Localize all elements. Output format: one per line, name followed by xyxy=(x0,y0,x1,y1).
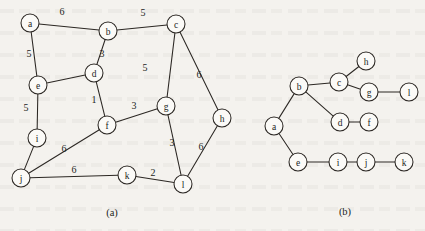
graph-edge-b-c xyxy=(308,83,330,85)
graph-node-a[interactable]: a xyxy=(21,14,39,32)
graph-node-d[interactable]: d xyxy=(85,64,103,82)
panel-caption-panel-a: (a) xyxy=(106,207,118,219)
graph-node-b[interactable]: b xyxy=(99,22,117,40)
edge-weight-k-l: 2 xyxy=(151,167,156,178)
node-label-d: d xyxy=(338,118,343,128)
graph-node-j[interactable]: j xyxy=(357,153,375,171)
edge-weight-e-i: 5 xyxy=(24,102,29,113)
graph-edge-j-k xyxy=(30,175,118,178)
graph-edge-f-g xyxy=(116,109,158,122)
edge-weight-f-g: 3 xyxy=(132,100,137,111)
graph-edge-c-h xyxy=(346,67,359,77)
graph-node-g[interactable]: g xyxy=(360,83,378,101)
graph-node-b[interactable]: b xyxy=(290,77,308,95)
edge-weight-g-l: 3 xyxy=(170,137,175,148)
graph-node-c[interactable]: c xyxy=(167,15,185,33)
figure-container: 65535615336662abcdefghijkl(a)hcbgldfaeij… xyxy=(0,0,425,231)
graph-edge-i-j xyxy=(24,146,33,169)
node-label-i: i xyxy=(36,134,39,144)
node-label-l: l xyxy=(408,88,411,98)
graph-node-h[interactable]: h xyxy=(213,109,231,127)
node-label-b: b xyxy=(297,82,302,92)
panel-b: hcbgldfaeijk(b) xyxy=(265,52,418,218)
graph-node-l[interactable]: l xyxy=(174,175,192,193)
node-label-k: k xyxy=(125,171,130,181)
graph-node-j[interactable]: j xyxy=(12,169,30,187)
graph-node-c[interactable]: c xyxy=(330,73,348,91)
edge-weight-b-d: 3 xyxy=(100,48,105,59)
graph-node-a[interactable]: a xyxy=(265,117,283,135)
graph-edge-c-g xyxy=(348,85,361,89)
edge-weight-c-h: 6 xyxy=(197,69,202,80)
edge-group xyxy=(24,24,218,183)
graph-node-d[interactable]: d xyxy=(331,113,349,131)
node-label-c: c xyxy=(337,78,341,88)
graph-edge-a-b xyxy=(39,24,99,30)
node-label-h: h xyxy=(364,57,369,67)
node-label-d: d xyxy=(92,69,97,79)
graph-edge-a-e xyxy=(279,133,293,154)
graph-edge-a-b xyxy=(279,94,294,119)
edge-weight-j-f: 6 xyxy=(62,143,67,154)
graph-node-g[interactable]: g xyxy=(157,97,175,115)
graph-node-k[interactable]: k xyxy=(395,153,413,171)
graph-node-h[interactable]: h xyxy=(357,52,375,70)
node-label-k: k xyxy=(402,158,407,168)
panel-caption-panel-b: (b) xyxy=(339,206,352,218)
graph-node-e[interactable]: e xyxy=(289,153,307,171)
edge-weight-b-c: 5 xyxy=(141,7,146,18)
node-label-j: j xyxy=(364,158,368,168)
graph-edge-e-i xyxy=(37,94,38,129)
graph-node-l[interactable]: l xyxy=(400,83,418,101)
node-label-g: g xyxy=(367,88,372,98)
edge-weight-a-b: 6 xyxy=(60,6,65,17)
edge-weight-c-g: 5 xyxy=(143,62,148,73)
graph-node-f[interactable]: f xyxy=(360,113,378,131)
edge-weight-a-e: 5 xyxy=(27,48,32,59)
node-label-b: b xyxy=(106,27,111,37)
panel-a: 65535615336662abcdefghijkl(a) xyxy=(12,6,231,219)
graph-figure-canvas: 65535615336662abcdefghijkl(a)hcbgldfaeij… xyxy=(0,0,425,231)
edge-weight-h-l: 6 xyxy=(199,141,204,152)
edge-weight-d-f: 1 xyxy=(92,94,97,105)
node-group: abcdefghijkl xyxy=(12,14,231,193)
node-label-g: g xyxy=(164,102,169,112)
node-label-c: c xyxy=(174,20,178,30)
graph-node-i[interactable]: i xyxy=(28,129,46,147)
node-label-e: e xyxy=(296,158,300,168)
node-label-j: j xyxy=(19,174,23,184)
edge-weight-j-k: 6 xyxy=(72,164,77,175)
graph-edge-d-f xyxy=(96,82,105,117)
graph-node-i[interactable]: i xyxy=(329,153,347,171)
graph-node-k[interactable]: k xyxy=(118,166,136,184)
node-label-l: l xyxy=(182,180,185,190)
graph-edge-b-c xyxy=(117,25,167,30)
graph-edge-a-e xyxy=(31,32,37,76)
graph-edge-e-d xyxy=(47,75,85,83)
node-label-h: h xyxy=(220,114,225,124)
node-group: hcbgldfaeijk xyxy=(265,52,418,171)
node-label-i: i xyxy=(337,158,340,168)
graph-edge-b-d xyxy=(306,92,333,116)
node-label-e: e xyxy=(36,81,40,91)
graph-node-f[interactable]: f xyxy=(98,116,116,134)
graph-node-e[interactable]: e xyxy=(29,76,47,94)
graph-edge-c-g xyxy=(167,33,175,97)
